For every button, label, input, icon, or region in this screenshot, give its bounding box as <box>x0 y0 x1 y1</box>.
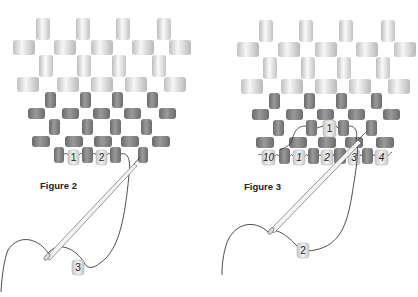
needle <box>267 132 366 235</box>
needle <box>43 157 140 261</box>
svg-text:1: 1 <box>327 123 333 134</box>
light-bead-rows <box>237 20 416 94</box>
numbered-bead-10: 10 <box>262 150 275 165</box>
numbered-bead-2: 2 <box>321 150 333 165</box>
svg-text:2: 2 <box>300 245 306 256</box>
numbered-bead-top-1: 1 <box>323 120 336 137</box>
figure-3: 1 10 1 2 3 4 <box>222 20 416 275</box>
figure-3-caption: Figure 3 <box>244 181 281 192</box>
numbered-bead-3: 3 <box>72 260 84 275</box>
light-bead-rows <box>13 18 191 92</box>
numbered-bead-4: 4 <box>375 150 388 165</box>
bead-diagram: 1 2 3 Figure 2 <box>0 0 418 297</box>
svg-text:4: 4 <box>379 152 385 163</box>
svg-text:2: 2 <box>323 152 330 163</box>
numbered-bead-2: 2 <box>96 150 107 165</box>
figure-2-caption: Figure 2 <box>40 180 77 191</box>
numbered-bead-2-on-thread: 2 <box>297 243 309 258</box>
thread <box>1 154 130 292</box>
numbered-bead-1: 1 <box>293 150 305 165</box>
svg-text:1: 1 <box>296 152 302 163</box>
svg-text:10: 10 <box>263 152 275 163</box>
numbered-bead-1: 1 <box>68 150 79 165</box>
figure-2: 1 2 3 Figure 2 <box>1 18 191 292</box>
svg-text:3: 3 <box>351 152 357 163</box>
svg-text:1: 1 <box>71 152 77 163</box>
svg-text:3: 3 <box>75 262 81 273</box>
svg-text:2: 2 <box>99 152 105 163</box>
